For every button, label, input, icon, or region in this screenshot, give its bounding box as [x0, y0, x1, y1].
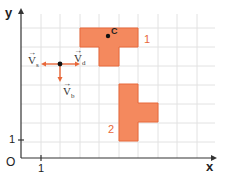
- vector-s-label: →Vs: [28, 55, 39, 69]
- x-tick-label: 1: [38, 163, 44, 174]
- shape-2: [119, 84, 158, 141]
- origin-label: O: [6, 156, 15, 168]
- point-c-label: C: [111, 27, 118, 36]
- vector-b-label: →Vb: [63, 86, 74, 100]
- y-axis-label: y: [5, 6, 12, 19]
- shape-1-label: 1: [144, 34, 150, 45]
- y-tick-label: 1: [9, 134, 15, 145]
- shape-2-label: 2: [108, 124, 114, 135]
- body-point: [58, 62, 63, 67]
- vector-d-label: →Vd: [74, 53, 85, 67]
- x-axis-label: x: [206, 160, 213, 173]
- shape-1: [80, 28, 138, 66]
- point-c: [106, 34, 110, 38]
